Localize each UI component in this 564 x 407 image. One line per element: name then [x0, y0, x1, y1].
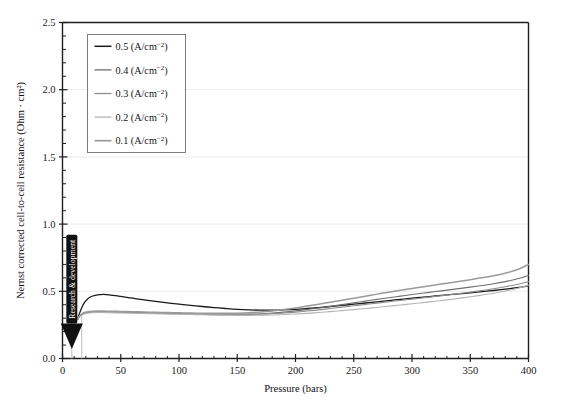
x-tick-label: 400 — [521, 365, 537, 376]
x-axis-title: Pressure (bars) — [264, 383, 327, 395]
y-tick-label: 1.0 — [42, 219, 55, 230]
y-axis-title: Nernst corrected cell-to-cell resistance… — [15, 81, 27, 299]
legend: 0.5 (A/cm−2)0.4 (A/cm−2)0.3 (A/cm−2)0.2 … — [88, 35, 186, 153]
x-tick-label: 150 — [229, 365, 245, 376]
x-tick-label: 50 — [116, 365, 127, 376]
x-tick-label: 0 — [60, 365, 65, 376]
x-tick-label: 350 — [462, 365, 478, 376]
annotation-label: Research & development — [68, 239, 77, 319]
y-tick-label: 2.5 — [42, 17, 55, 28]
x-tick-label: 250 — [346, 365, 362, 376]
line-chart: 0.00.51.01.52.02.50501001502002503003504… — [0, 0, 564, 407]
y-tick-label: 0.5 — [42, 286, 55, 297]
figure-container: 0.00.51.01.52.02.50501001502002503003504… — [0, 0, 564, 407]
series-line-0_2[interactable] — [78, 285, 529, 320]
x-tick-label: 200 — [288, 365, 304, 376]
y-tick-label: 0.0 — [42, 353, 55, 364]
y-tick-label: 1.5 — [42, 152, 55, 163]
x-tick-label: 300 — [404, 365, 420, 376]
y-tick-label: 2.0 — [42, 84, 55, 95]
x-tick-label: 100 — [171, 365, 187, 376]
